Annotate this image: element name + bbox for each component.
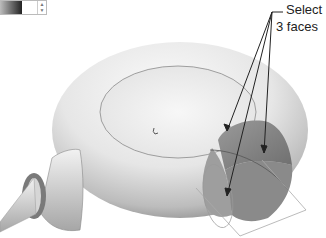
torus-illustration — [0, 0, 326, 238]
nozzle-housing — [40, 149, 83, 230]
selected-face-side — [225, 161, 292, 221]
callout-line-2: 3 faces — [276, 18, 322, 35]
cad-figure: ▲▼ — [0, 0, 326, 238]
callout-line-1: Select — [286, 1, 322, 18]
select-faces-callout: Select 3 faces — [286, 1, 322, 35]
nozzle-cone — [0, 178, 36, 232]
